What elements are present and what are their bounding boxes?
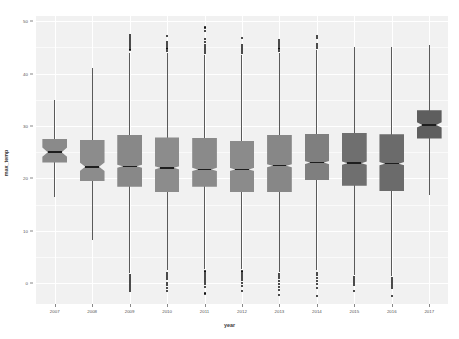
x-axis-tick-mark xyxy=(205,304,206,307)
x-axis-tick-mark xyxy=(130,304,131,307)
x-axis-tick-label: 2015 xyxy=(349,309,359,314)
x-axis-tick-mark xyxy=(354,304,355,307)
x-axis-tick-mark xyxy=(167,304,168,307)
x-axis-tick-mark xyxy=(279,304,280,307)
x-axis-tick-mark xyxy=(317,304,318,307)
x-axis-tick-label: 2011 xyxy=(200,309,209,314)
x-axis-tick-mark xyxy=(92,304,93,307)
chart-root: 01020304050 2007200820092010201120122013… xyxy=(0,0,459,339)
x-axis-tick-mark xyxy=(429,304,430,307)
x-axis-tick-label: 2017 xyxy=(424,309,434,314)
x-axis-tick-label: 2016 xyxy=(387,309,397,314)
x-axis-tick-label: 2013 xyxy=(275,309,285,314)
x-axis-tick-label: 2010 xyxy=(162,309,172,314)
x-axis-tick-mark xyxy=(242,304,243,307)
x-axis-tick-label: 2009 xyxy=(125,309,135,314)
x-axis-tick-label: 2014 xyxy=(312,309,322,314)
x-axis: 2007200820092010201120122013201420152016… xyxy=(0,0,459,339)
x-axis-tick-label: 2007 xyxy=(50,309,60,314)
y-axis-label: max_temp xyxy=(3,133,9,193)
x-axis-tick-mark xyxy=(392,304,393,307)
x-axis-tick-mark xyxy=(55,304,56,307)
x-axis-tick-label: 2008 xyxy=(87,309,97,314)
x-axis-label: year xyxy=(0,322,459,328)
x-axis-tick-label: 2012 xyxy=(237,309,247,314)
